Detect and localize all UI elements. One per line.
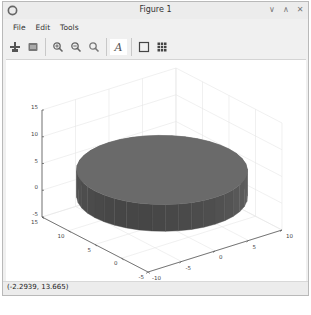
3d-axes[interactable]: -10-50510-5051015-5051015 bbox=[6, 60, 306, 284]
toolbar: A bbox=[3, 37, 308, 57]
toggle-box-button[interactable] bbox=[135, 39, 152, 55]
toolbar-separator bbox=[131, 38, 132, 56]
cylinder-side-face bbox=[204, 198, 215, 228]
y-tick bbox=[148, 272, 150, 274]
y-tick-label: 10 bbox=[58, 233, 65, 239]
z-tick-label: 15 bbox=[31, 104, 38, 110]
cylinder-side-face bbox=[215, 194, 225, 224]
x-tick-label: -5 bbox=[186, 265, 192, 271]
toolbar-separator bbox=[45, 38, 46, 56]
y-tick-label: 15 bbox=[31, 219, 38, 225]
axes-box-icon bbox=[138, 41, 150, 53]
x-tick-label: 0 bbox=[219, 254, 223, 260]
y-tick-label: 0 bbox=[114, 260, 118, 266]
rotate-button[interactable] bbox=[6, 39, 23, 55]
cylinder-side-face bbox=[225, 190, 233, 221]
zoom-out-button[interactable] bbox=[67, 39, 84, 55]
zoom-in-button[interactable] bbox=[49, 39, 66, 55]
cylinder-side-face bbox=[165, 204, 178, 231]
cylinder-side-face bbox=[179, 203, 192, 231]
cylinder-side-face bbox=[139, 203, 152, 231]
z-tick-label: -5 bbox=[33, 211, 39, 217]
rotate-icon bbox=[9, 41, 21, 53]
cylinder-side-face bbox=[104, 195, 115, 225]
grid-icon bbox=[156, 41, 168, 53]
cylinder-side-face bbox=[126, 201, 139, 230]
status-bar: (-2.2939, 13.665) bbox=[3, 281, 308, 295]
cylinder-side-face bbox=[95, 191, 104, 222]
menu-tools[interactable]: Tools bbox=[55, 20, 83, 35]
reset-view-button[interactable] bbox=[24, 39, 41, 55]
figure-window: Figure 1 ∨ ∧ ✕ File Edit Tools bbox=[2, 1, 309, 296]
toolbar-separator bbox=[106, 38, 107, 56]
plot-canvas[interactable]: -10-50510-5051015-5051015 bbox=[6, 59, 306, 284]
maximize-button[interactable]: ∧ bbox=[282, 4, 290, 16]
cylinder-side-face bbox=[82, 181, 88, 213]
z-tick-label: 0 bbox=[35, 184, 39, 190]
cylinder-side-face bbox=[88, 186, 95, 217]
x-tick-label: 10 bbox=[286, 233, 293, 239]
x-tick bbox=[146, 272, 148, 274]
text-icon: A bbox=[115, 41, 123, 54]
minimize-button[interactable]: ∨ bbox=[268, 4, 276, 16]
reset-view-icon bbox=[27, 41, 39, 53]
cylinder-side-face bbox=[240, 180, 245, 212]
cursor-coordinates: (-2.2939, 13.665) bbox=[7, 283, 68, 291]
z-tick-label: 5 bbox=[35, 158, 39, 164]
window-title: Figure 1 bbox=[3, 5, 308, 14]
cylinder-side-face bbox=[192, 200, 204, 229]
zoom-in-icon bbox=[52, 41, 64, 53]
cylinder-side-face bbox=[152, 204, 165, 231]
close-button[interactable]: ✕ bbox=[296, 4, 304, 16]
y-tick-label: -5 bbox=[139, 274, 145, 280]
zoom-button[interactable] bbox=[85, 39, 102, 55]
zoom-out-icon bbox=[70, 41, 82, 53]
cylinder-side-face bbox=[233, 185, 240, 216]
menu-edit[interactable]: Edit bbox=[31, 20, 56, 35]
zoom-icon bbox=[88, 41, 100, 53]
z-tick-label: 10 bbox=[31, 131, 38, 137]
y-tick-label: 5 bbox=[88, 247, 92, 253]
title-bar[interactable]: Figure 1 ∨ ∧ ✕ bbox=[3, 2, 308, 19]
menu-bar: File Edit Tools bbox=[3, 20, 308, 35]
cylinder-side-face bbox=[115, 198, 127, 227]
x-tick-label: 5 bbox=[253, 244, 257, 250]
cylinder-top-cap bbox=[77, 135, 248, 204]
insert-text-button[interactable]: A bbox=[110, 39, 127, 55]
toggle-grid-button[interactable] bbox=[153, 39, 170, 55]
menu-file[interactable]: File bbox=[8, 20, 31, 35]
